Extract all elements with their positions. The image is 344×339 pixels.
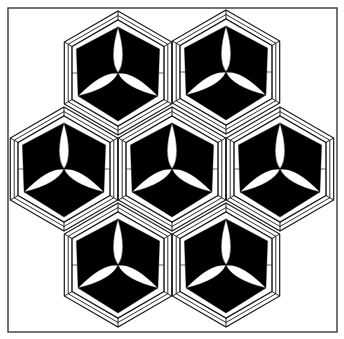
figure-root: Hexagonal pinwheel tessellation Seven po…	[0, 0, 344, 339]
tessellation-canvas	[0, 0, 344, 339]
